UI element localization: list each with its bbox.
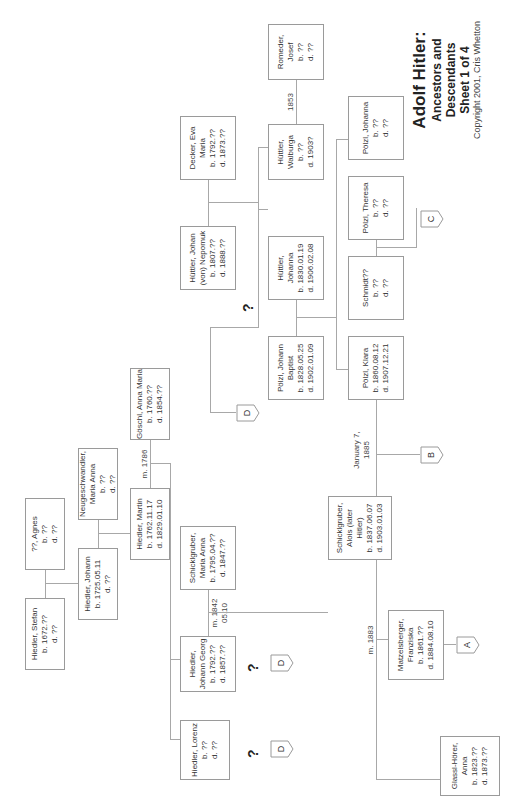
marriage-label-1853: 1853 [286,80,296,124]
person-schicklgruber-maria[interactable]: Schicklgruber, Maria Anna b. 1795.04.?? … [180,526,236,590]
connector-line [98,533,130,534]
connector-line [376,400,377,496]
person-polzl-theresa[interactable]: Pölzl, Theresa b. ?? d. ?? [348,176,404,240]
person-hiedler-lorenz[interactable]: Hiedler, Lorenz b. ?? d. ?? [180,720,230,780]
connector-line [376,779,440,780]
connector-c[interactable]: C [420,210,444,228]
connector-line [376,247,416,248]
person-hiedler-martin[interactable]: Hiedler, Martin b. 1762.11.17 d. 1829.01… [130,488,170,560]
person-hiedler-johann[interactable]: Hiedler, Johann b. 1725.05.11 d. ?? [78,548,118,620]
connector-d[interactable]: D [236,404,260,422]
connector-line [376,454,420,455]
connector-line [210,412,236,413]
connector-line [258,209,268,210]
unknown-parent-mark: ? [245,749,261,758]
connector-line [208,590,209,636]
connector-line [376,240,377,256]
connector-line [150,440,151,488]
connector-line [208,202,258,203]
person-huttler-walburga[interactable]: Hüttler, Walburga b. ?? d. 1903? [268,124,324,180]
family-tree-chart: Adolf Hitler: Ancestors and Descendants … [0,0,516,800]
connector-line [45,570,46,598]
connector-b[interactable]: B [420,446,444,464]
person-schmidt[interactable]: Schmidt?? b. ?? d. ?? [348,256,404,320]
connector-line [296,300,297,336]
marriage-label-1786: m. 1786 [140,440,150,488]
person-decker[interactable]: Decker, Eva Maria b. 1792.?? d. 1873.?? [180,116,236,180]
person-goschl[interactable]: Göschl, Anna Maria b. 1760.?? d. 1854.?? [130,368,170,440]
connector-line [208,612,328,613]
marriage-label-1883: m. 1883 [366,610,376,670]
connector-line [376,639,388,640]
person-alois[interactable]: Schicklgruber, Alois (later Hitler) b. 1… [328,496,392,560]
connector-line [258,147,268,148]
chart-subtitle: Ancestors and Descendants [430,10,458,150]
unknown-parent-mark: ? [245,663,261,672]
person-hiedler-johann-georg[interactable]: Hiedler, Johann Georg b. 1792.?? d. 1857… [180,636,236,692]
connector-line [296,317,336,318]
connector-line [296,80,297,124]
connector-line [208,180,209,226]
person-matzelsberger[interactable]: Matzelsberger, Franziska b. 1861.?? d. 1… [388,610,444,680]
connector-line [210,327,258,328]
connector-line [258,148,259,328]
chart-title-block: Adolf Hitler: Ancestors and Descendants … [410,10,482,150]
person-polzl-johann[interactable]: Pölzl, Johann Baptist b. 1828.05.25 d. 1… [268,336,324,400]
person-huttler-nepomuk[interactable]: Hüttler, Johan (von) Nepomuk b. 1807.?? … [180,226,236,290]
marriage-label-1885: January 7, 1885 [352,420,372,480]
connector-line [170,463,171,740]
person-glassl[interactable]: Glassl-Hörer, Anna b. 1823.?? d. 1873.?? [440,736,500,796]
unknown-parent-mark: ? [240,303,256,312]
connector-line [444,644,456,645]
connector-line [150,463,170,464]
connector-line [336,139,348,140]
person-agnes[interactable]: ??, Agnes b. ?? d. ?? [25,498,65,570]
connector-d[interactable]: D [270,740,294,758]
person-romeder[interactable]: Romeder, Josef b. ?? d. ?? [268,24,324,80]
connector-d[interactable]: D [270,654,294,672]
sheet-label: Sheet 1 of 4 [458,10,472,150]
connector-line [416,208,417,248]
connector-line [98,520,99,548]
person-huttler-johanna[interactable]: Hüttler, Johanna b. 1830.01.19 d. 1906.0… [268,236,324,300]
copyright: Copyright 2001, Cris Whetton [472,10,482,150]
person-neugeschwandler[interactable]: Neugeschwandler, Maria Anna b. ?? d. ?? [78,448,118,520]
connector-line [376,560,377,780]
person-polzl-johanna[interactable]: Pölzl, Johanna b. ?? d. ?? [348,96,404,160]
person-hiedler-stefan[interactable]: Hiedler, Stefan b. 1672.?? d. ?? [25,598,65,670]
connector-a[interactable]: A [456,636,480,654]
chart-title: Adolf Hitler: [410,10,430,150]
person-polzl-klara[interactable]: Pölzl, Klara b. 1860.08.12 d. 1907.12.21 [348,336,404,400]
connector-line [210,328,211,413]
marriage-label-1842: m. 1842 05.10 [210,590,230,636]
connector-line [336,140,337,370]
connector-line [336,369,348,370]
